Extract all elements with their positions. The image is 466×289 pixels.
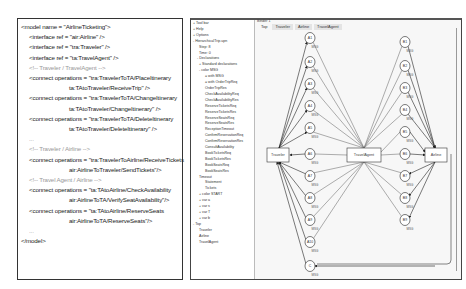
svg-text:MSG: MSG xyxy=(312,135,320,139)
svg-text:B6: B6 xyxy=(403,152,407,156)
svg-text:MSG: MSG xyxy=(312,249,320,253)
svg-text:MSG: MSG xyxy=(407,183,415,187)
code-line: air:AirlineToTA/ReserveSeats"/> xyxy=(21,216,179,226)
canvas-border xyxy=(456,28,457,271)
svg-text:MSG: MSG xyxy=(312,69,320,73)
cpn-tool-window: + Tool bar+ Help+ Options- HierarchicalT… xyxy=(190,18,462,280)
svg-text:MSG: MSG xyxy=(407,117,415,121)
svg-text:MSG: MSG xyxy=(407,139,415,143)
svg-text:TravelAgent: TravelAgent xyxy=(354,153,375,157)
net-canvas[interactable]: Binder 1 TopTravelerAirlineTravelAgent A… xyxy=(255,20,461,279)
svg-text:Airline: Airline xyxy=(431,153,442,157)
code-line: ta:TAtoTraveler/ReceiveTrip" /> xyxy=(21,83,179,93)
svg-text:MSG: MSG xyxy=(312,183,320,187)
svg-text:A7: A7 xyxy=(308,174,312,178)
svg-text:MSG: MSG xyxy=(407,227,415,231)
svg-text:MSG: MSG xyxy=(407,73,415,77)
svg-text:A9: A9 xyxy=(308,218,312,222)
code-line: <connect operations = "ta:TAtoAirline/Ch… xyxy=(21,185,179,195)
svg-text:A2: A2 xyxy=(308,60,312,64)
code-line: <connect operations = "tra:TravelerToTA/… xyxy=(21,93,179,103)
svg-text:B2: B2 xyxy=(403,64,407,68)
svg-text:MSG: MSG xyxy=(407,95,415,99)
code-comment-line: ... xyxy=(21,134,179,144)
svg-text:A5: A5 xyxy=(308,126,312,130)
svg-text:A6: A6 xyxy=(308,152,312,156)
binder-label: Binder 1 xyxy=(257,19,270,23)
svg-text:MSG: MSG xyxy=(312,227,320,231)
svg-text:B8: B8 xyxy=(403,196,407,200)
code-comment-line: <!-- Travel Agent / Airline --> xyxy=(21,175,179,185)
code-line: <connect operations = "tra:TravelerToTA/… xyxy=(21,114,179,124)
svg-text:MSG: MSG xyxy=(312,205,320,209)
code-line: ta:TAtoTraveler/DeleteItinerary" /> xyxy=(21,124,179,134)
code-line: <connect operations = "ta:TAtoAirline/Re… xyxy=(21,206,179,216)
svg-text:B3: B3 xyxy=(403,86,407,90)
svg-text:A10: A10 xyxy=(307,240,313,244)
code-line: air:AirlineToTA/VerifySeatAvailability"/… xyxy=(21,195,179,205)
svg-text:B7: B7 xyxy=(403,174,407,178)
index-tree-panel[interactable]: + Tool bar+ Help+ Options- HierarchicalT… xyxy=(191,20,255,279)
svg-text:MSG: MSG xyxy=(407,205,415,209)
petri-net-graph: A1MSGA2MSGA3MSGA4MSGA5MSGA6MSGA7MSGA8MSG… xyxy=(255,28,455,278)
code-line: ta:TAtoTraveler/ChangeItinerary" /> xyxy=(21,104,179,114)
svg-text:MSG: MSG xyxy=(407,161,415,165)
svg-text:B4: B4 xyxy=(403,108,407,112)
xml-code-listing: <model name = "AirlineTicketing"><interf… xyxy=(17,18,183,280)
code-line: <connect operations = "tra:TravelerToTA/… xyxy=(21,73,179,83)
svg-text:MSG: MSG xyxy=(312,45,320,49)
svg-text:MSG: MSG xyxy=(407,49,415,53)
code-line: <interface ref = "air:Airline" /> xyxy=(21,32,179,42)
svg-text:A1: A1 xyxy=(308,36,312,40)
svg-text:Traveler: Traveler xyxy=(271,153,286,157)
svg-text:MSG: MSG xyxy=(312,273,320,277)
svg-text:A3: A3 xyxy=(308,82,312,86)
tree-item[interactable]: TravelAgent xyxy=(191,240,254,246)
svg-text:B5: B5 xyxy=(403,130,407,134)
svg-text:MSG: MSG xyxy=(312,161,320,165)
code-comment-line: <!-- Traveler / Airline --> xyxy=(21,144,179,154)
svg-text:A8: A8 xyxy=(308,196,312,200)
code-line: <interface ref = "tra:Traveler" /> xyxy=(21,42,179,52)
code-line: air:AirlineToTraveler/SendTickets"/> xyxy=(21,165,179,175)
svg-text:B1: B1 xyxy=(403,40,407,44)
code-line: <interface ref = "ta:TravelAgent" /> xyxy=(21,53,179,63)
svg-text:B9: B9 xyxy=(403,218,407,222)
svg-text:A4: A4 xyxy=(308,104,312,108)
code-line: <model name = "AirlineTicketing"> xyxy=(21,22,179,32)
code-comment-line: <!-- Traveler / TravelAgent --> xyxy=(21,63,179,73)
code-line: </model> xyxy=(21,236,179,246)
svg-text:MSG: MSG xyxy=(312,113,320,117)
svg-text:MSG: MSG xyxy=(312,91,320,95)
code-line: <connect operations = "tra:TravelerToAir… xyxy=(21,155,179,165)
code-comment-line: ... xyxy=(21,226,179,236)
